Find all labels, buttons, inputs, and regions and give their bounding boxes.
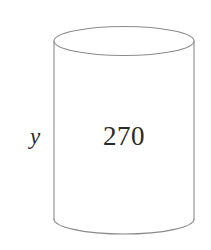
- cylinder-height-label: y: [30, 125, 40, 148]
- cylinder-volume-label: 270: [103, 123, 145, 150]
- cylinder-figure: y 270: [0, 0, 211, 250]
- cylinder-top-ellipse: [54, 27, 194, 56]
